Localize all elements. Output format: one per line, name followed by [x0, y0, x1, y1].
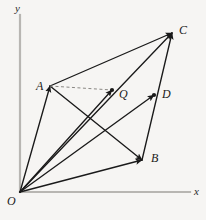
point-dot-D [152, 93, 156, 97]
point-dots-group [110, 88, 156, 97]
segment-AQ-dashed [50, 86, 112, 90]
segment-AC [50, 33, 172, 86]
segment-AB [50, 86, 142, 160]
point-label-Q: Q [119, 88, 128, 100]
point-label-D: D [162, 88, 171, 100]
x-axis-label: x [194, 186, 199, 197]
vector-OB [20, 160, 142, 192]
y-axis-label: y [15, 3, 20, 14]
point-label-O: O [7, 195, 16, 207]
vector-OD [20, 95, 154, 192]
point-label-A: A [36, 80, 43, 92]
point-dot-Q [110, 88, 114, 92]
vector-lines-group [20, 33, 172, 192]
vector-diagram-figure: y x O A Q C D B [0, 0, 206, 220]
diagram-canvas [0, 0, 206, 220]
point-label-B: B [151, 152, 158, 164]
point-label-C: C [179, 24, 187, 36]
